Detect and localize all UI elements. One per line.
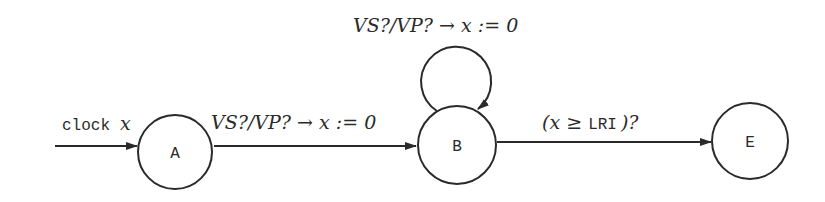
transition-label: (x ≥ LRI )? [542, 111, 639, 134]
state-label: E [745, 134, 755, 152]
state-B: B [418, 106, 496, 184]
state-A: A [138, 115, 212, 189]
constant-LRI: LRI [588, 116, 617, 134]
state-E: E [712, 103, 788, 179]
transition-B-self-loop: VS?/VP? → x := 0 [353, 14, 518, 111]
transition-B-to-E: (x ≥ LRI )? [497, 111, 711, 142]
clock-variable: x [120, 112, 131, 134]
transition-label: VS?/VP? → x := 0 [211, 111, 376, 133]
automaton-diagram: clock x A VS?/VP? → x := 0 B VS?/VP? → x… [0, 0, 825, 202]
clock-declaration: clock x [62, 112, 131, 135]
clock-keyword: clock [62, 117, 110, 135]
transition-A-to-B: VS?/VP? → x := 0 [211, 111, 416, 146]
loop-arrow [421, 47, 491, 111]
initial-transition: clock x [55, 112, 137, 146]
state-label: B [452, 138, 462, 156]
transition-label: VS?/VP? → x := 0 [353, 14, 518, 36]
state-label: A [170, 145, 180, 163]
